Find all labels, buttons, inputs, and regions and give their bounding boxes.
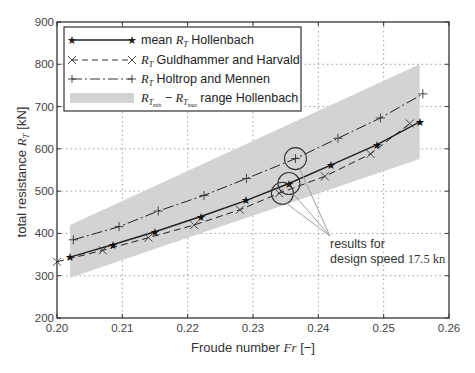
y-tick-label: 700: [35, 101, 54, 113]
y-tick-label: 400: [35, 227, 54, 239]
annotation-text-line1: results for: [330, 237, 385, 251]
y-tick-label: 600: [35, 143, 54, 155]
star-marker: ★: [108, 239, 118, 251]
star-marker: ★: [415, 116, 425, 128]
star-marker: ★: [326, 159, 336, 171]
y-tick-label: 300: [35, 270, 54, 282]
star-marker: ★: [196, 211, 206, 223]
annotation-text-line2: design speed 17.5 kn: [330, 252, 446, 266]
plus-marker: [418, 89, 427, 98]
x-tick-label: 0.25: [372, 322, 394, 334]
svg-text:★: ★: [67, 34, 77, 46]
x-tick-label: 0.24: [307, 322, 330, 334]
leader-line: [286, 203, 330, 236]
svg-text:★: ★: [127, 34, 137, 46]
y-tick-label: 900: [35, 16, 54, 28]
y-tick-label: 200: [35, 312, 54, 324]
svg-text:RT Guldhammer and Harvald: RT Guldhammer and Harvald: [140, 53, 300, 69]
x-axis-title: Froude number Fr [−]: [191, 340, 315, 355]
y-tick-label: 500: [35, 185, 54, 197]
x-tick-label: 0.26: [438, 322, 460, 334]
y-axis-title: total resistance RT [kN]: [14, 107, 31, 238]
star-marker: ★: [65, 251, 75, 263]
y-tick-label: 800: [35, 58, 54, 70]
legend: ★ ★ mean RT Hollenbach RT Guldhammer and…: [64, 27, 301, 111]
leader-line: [293, 194, 330, 236]
svg-text:RT Holtrop and Mennen: RT Holtrop and Mennen: [140, 72, 270, 88]
x-tick-label: 0.23: [242, 322, 264, 334]
star-marker: ★: [241, 194, 251, 206]
x-tick-label: 0.22: [176, 322, 198, 334]
resistance-chart: ★★★★★★★★★ 0.200.210.220.230.240.250.2620…: [0, 0, 475, 373]
svg-text:mean RT Hollenbach: mean RT Hollenbach: [141, 33, 254, 49]
star-marker: ★: [372, 139, 382, 151]
x-tick-label: 0.21: [111, 322, 133, 334]
